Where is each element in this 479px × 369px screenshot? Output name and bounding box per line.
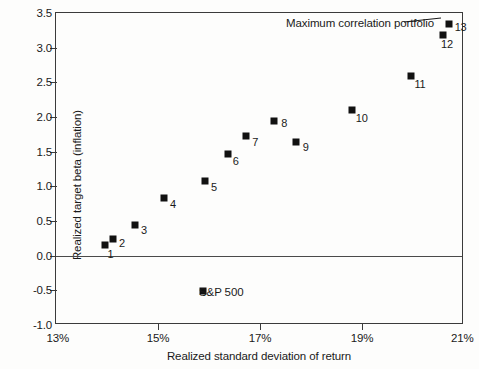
- data-point-marker: [348, 107, 355, 114]
- data-point-label: 9: [303, 141, 309, 153]
- y-axis-tick-label: -0.5: [33, 284, 52, 296]
- data-point-label: 6: [233, 155, 239, 167]
- chart-figure: Realized target beta (inflation) Realize…: [0, 0, 479, 369]
- data-point-label: 5: [211, 181, 217, 193]
- y-axis-tick-label: -1.0: [33, 319, 52, 331]
- data-point-label: 7: [252, 136, 258, 148]
- y-axis-tick-label: 1.5: [37, 146, 52, 158]
- y-axis-tick-label: 2.0: [37, 111, 52, 123]
- y-axis-tick-label: 3.0: [37, 42, 52, 54]
- data-point-marker: [243, 133, 250, 140]
- y-axis-tick-label: 3.5: [37, 7, 52, 19]
- plot-area: 3.53.02.52.01.51.00.50.0-0.5-1.0 13%15%1…: [55, 12, 463, 324]
- x-axis-tick-mark: [260, 323, 261, 330]
- data-point-label: 2: [119, 237, 125, 249]
- y-axis-tick-label: 2.5: [37, 76, 52, 88]
- data-point-label: 11: [414, 78, 425, 90]
- y-axis-tick-label: 0.0: [37, 250, 52, 262]
- x-axis-tick-mark: [362, 323, 363, 330]
- zero-reference-line: [56, 256, 462, 257]
- data-point-label: 4: [170, 198, 176, 210]
- data-point-label: 13: [455, 21, 467, 33]
- x-axis-tick-label: 13%: [47, 332, 69, 344]
- x-axis-tick-label: 21%: [451, 332, 473, 344]
- data-point-label: 8: [281, 117, 287, 129]
- data-point-marker: [271, 118, 278, 125]
- x-axis-title: Realized standard deviation of return: [55, 350, 463, 362]
- data-point-marker: [110, 236, 117, 243]
- data-point-marker: [445, 21, 452, 28]
- data-point-marker: [132, 222, 139, 229]
- data-point-marker: [201, 178, 208, 185]
- data-point-label: 1: [107, 248, 113, 260]
- data-point-label: 3: [141, 224, 147, 236]
- data-point-label: 12: [441, 38, 453, 50]
- y-axis-tick-label: 1.0: [37, 180, 52, 192]
- data-point-marker: [292, 138, 299, 145]
- x-axis-tick-mark: [158, 323, 159, 330]
- x-axis-tick-label: 17%: [249, 332, 271, 344]
- data-point-marker: [161, 195, 168, 202]
- y-axis-tick-label: 0.5: [37, 215, 52, 227]
- annotation-maximum-correlation-portfolio: Maximum correlation portfolio: [286, 17, 434, 29]
- annotation-sp500-label: S&P 500: [199, 286, 244, 298]
- data-point-label: 10: [356, 112, 368, 124]
- x-axis-tick-label: 19%: [351, 332, 373, 344]
- x-axis-tick-label: 15%: [147, 332, 169, 344]
- data-point-marker: [224, 150, 231, 157]
